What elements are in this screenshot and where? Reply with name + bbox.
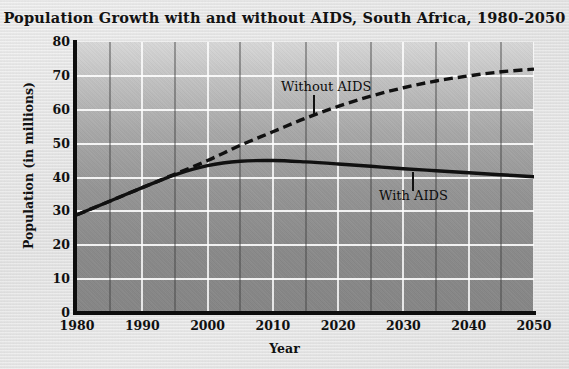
x-tick-label: 2040	[434, 318, 504, 333]
x-axis-title: Year	[0, 341, 569, 356]
y-axis-title: Population (in millions)	[21, 76, 36, 256]
chart-title: Population Growth with and without AIDS,…	[0, 9, 569, 26]
leader-line-without-aids	[313, 95, 315, 114]
x-tick-label: 2020	[303, 318, 373, 333]
annotation-without-aids: Without AIDS	[281, 79, 371, 94]
chart-figure: Population Growth with and without AIDS,…	[0, 0, 569, 369]
y-tick-label: 60	[30, 104, 70, 117]
x-tick-label: 2030	[368, 318, 438, 333]
x-tick-label: 2050	[499, 318, 569, 333]
y-axis-line	[73, 40, 77, 315]
y-tick-label: 80	[30, 36, 70, 49]
x-axis-line	[73, 311, 536, 315]
x-tick-label: 1990	[107, 318, 177, 333]
y-tick-label: 30	[30, 205, 70, 218]
x-tick-label: 2010	[238, 318, 308, 333]
y-tick-label: 40	[30, 172, 70, 185]
y-tick-label: 50	[30, 138, 70, 151]
y-tick-label: 20	[30, 239, 70, 252]
series-line-with-aids	[77, 160, 534, 214]
leader-line-with-aids	[412, 172, 414, 191]
y-tick-label: 70	[30, 70, 70, 83]
x-tick-label: 1980	[42, 318, 112, 333]
y-tick-label: 10	[30, 273, 70, 286]
x-tick-label: 2000	[173, 318, 243, 333]
